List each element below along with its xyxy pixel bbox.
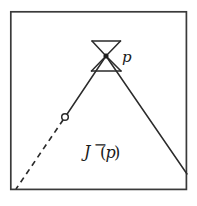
light-cone-lower-right-edge: [106, 56, 121, 71]
causal-past-label-paren-close: ): [114, 143, 120, 162]
causal-past-label-J: J: [81, 142, 92, 161]
figure-canvas: p J − ( p ): [0, 0, 197, 206]
point-p-label: p: [122, 48, 132, 66]
outer-border: [11, 12, 187, 190]
left-null-boundary-solid: [67, 56, 107, 115]
past-endpoint-circle: [62, 114, 69, 121]
light-cone-upper-left-edge: [92, 41, 106, 56]
light-cone-lower-left-edge: [92, 56, 107, 71]
point-p: [104, 54, 109, 59]
causal-past-label: J − ( p ): [81, 135, 120, 162]
causal-past-figure: p J − ( p ): [0, 0, 197, 206]
left-null-boundary-dashed: [16, 120, 63, 189]
light-cone-upper-right-edge: [106, 41, 121, 56]
